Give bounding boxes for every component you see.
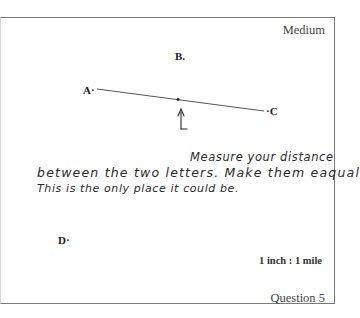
line-a-to-c [97, 89, 264, 111]
arrow-icon [178, 109, 187, 129]
midpoint-dot [177, 98, 180, 101]
